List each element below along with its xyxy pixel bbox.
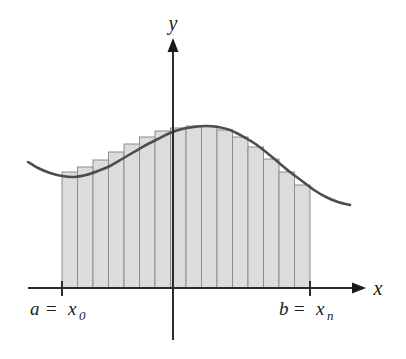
right-bound-subscript: n — [327, 308, 334, 323]
riemann-rectangle — [279, 172, 295, 288]
riemann-sum-diagram: x y a = x 0 b = x n — [0, 0, 406, 359]
x-axis-label: x — [373, 277, 383, 299]
riemann-rectangle — [155, 131, 171, 288]
riemann-rectangle — [124, 144, 140, 288]
riemann-rectangle — [233, 137, 249, 288]
left-bound-equals: = — [46, 298, 57, 319]
riemann-rectangle — [217, 130, 233, 288]
riemann-rectangle — [295, 185, 311, 288]
left-bound-endpoint: x — [67, 298, 77, 319]
y-axis-arrowhead — [168, 38, 179, 52]
right-bound-equals: = — [294, 298, 305, 319]
riemann-sum-figure: x y a = x 0 b = x n — [0, 0, 406, 359]
riemann-rectangle — [186, 126, 202, 288]
right-bound-label: b = x n — [279, 298, 334, 323]
riemann-rectangle — [202, 126, 218, 288]
riemann-rectangle — [109, 152, 125, 288]
riemann-rectangle — [62, 172, 78, 288]
x-axis-arrowhead — [352, 283, 366, 294]
left-bound-variable: a — [30, 298, 40, 319]
riemann-rectangles — [62, 126, 310, 288]
riemann-rectangle — [93, 160, 109, 288]
riemann-rectangle — [248, 147, 264, 288]
right-bound-endpoint: x — [315, 298, 325, 319]
riemann-rectangle — [264, 159, 280, 288]
left-bound-label: a = x 0 — [30, 298, 86, 323]
riemann-rectangle — [140, 137, 156, 288]
right-bound-variable: b — [279, 298, 289, 319]
y-axis-label: y — [167, 12, 178, 35]
riemann-rectangle — [78, 167, 94, 288]
left-bound-subscript: 0 — [79, 308, 86, 323]
